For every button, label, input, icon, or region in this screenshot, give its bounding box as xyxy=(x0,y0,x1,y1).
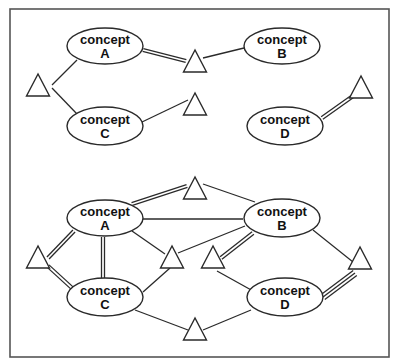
single-link-edge xyxy=(203,184,255,202)
single-link-edge xyxy=(52,60,77,85)
double-link-edge xyxy=(143,49,187,63)
single-link-edge xyxy=(135,310,188,330)
relation-triangle-icon xyxy=(202,246,225,268)
relation-triangle-icon xyxy=(349,247,372,269)
relation-triangle-icon xyxy=(184,93,207,115)
relation-triangle-icon xyxy=(161,246,184,268)
concept-id-label: A xyxy=(100,46,110,61)
concept-label: concept xyxy=(257,204,308,219)
concept-node-c: conceptC xyxy=(67,278,143,316)
concept-id-label: C xyxy=(100,126,110,141)
concept-id-label: A xyxy=(100,218,110,233)
concept-node-c: conceptC xyxy=(67,107,143,145)
single-link-edge xyxy=(203,310,251,330)
relation-triangle-icon xyxy=(27,74,50,96)
relation-triangle-icon xyxy=(27,246,50,268)
concept-label: concept xyxy=(80,32,131,47)
single-link-edge xyxy=(217,271,253,291)
concept-label: concept xyxy=(80,204,131,219)
double-link-edge xyxy=(220,232,254,259)
single-link-edge xyxy=(203,48,244,58)
concept-node-b: conceptB xyxy=(244,199,320,237)
double-link-edge xyxy=(47,265,73,289)
concept-node-a: conceptA xyxy=(67,200,143,236)
single-link-edge xyxy=(313,230,353,262)
concept-id-label: C xyxy=(100,297,110,312)
relation-triangle-icon xyxy=(184,50,207,72)
concept-node-a: conceptA xyxy=(67,28,143,64)
double-link-edge xyxy=(132,185,188,206)
concept-node-d: conceptD xyxy=(247,278,323,316)
concept-id-label: D xyxy=(280,126,289,141)
concept-label: concept xyxy=(80,283,131,298)
double-link-edge xyxy=(102,237,105,278)
concept-node-b: conceptB xyxy=(244,28,320,64)
triple-link-edge xyxy=(321,271,357,300)
single-link-edge xyxy=(132,231,165,254)
single-link-edge xyxy=(142,100,188,122)
concept-label: concept xyxy=(260,283,311,298)
concept-node-d: conceptD xyxy=(247,107,323,145)
concept-id-label: B xyxy=(277,218,286,233)
double-link-edge xyxy=(47,230,75,259)
concept-label: concept xyxy=(257,32,308,47)
concept-label: concept xyxy=(80,112,131,127)
concept-id-label: D xyxy=(280,297,289,312)
relation-triangle-icon xyxy=(350,76,373,98)
single-link-edge xyxy=(52,88,77,114)
concept-map-diagram: conceptAconceptBconceptCconceptDconceptA… xyxy=(0,0,396,364)
concept-id-label: B xyxy=(277,46,286,61)
single-link-edge xyxy=(143,268,170,292)
concept-label: concept xyxy=(260,112,311,127)
